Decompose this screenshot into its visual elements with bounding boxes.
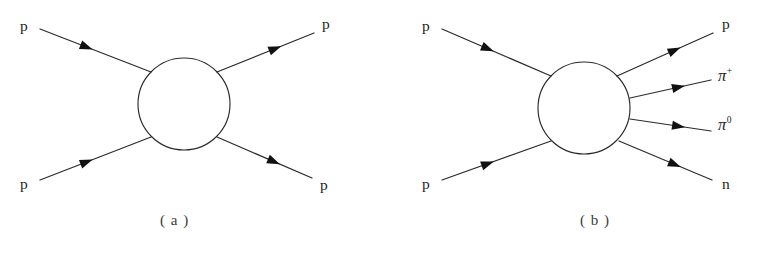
particle-label-b-incoming-p: p xyxy=(422,176,430,192)
particle-symbol: p xyxy=(20,175,28,192)
arrowhead-b-incoming-0 xyxy=(480,42,496,56)
particle-symbol: n xyxy=(722,175,730,192)
arrowhead-b-outgoing-1 xyxy=(671,81,686,93)
particle-label-b-outgoing-n: n xyxy=(722,176,730,192)
particle-line-b-outgoing-0 xyxy=(617,33,713,76)
particle-line-b-outgoing-3 xyxy=(619,141,712,180)
diagram-canvas xyxy=(0,0,764,266)
arrowhead-a-incoming-0 xyxy=(79,40,94,53)
particle-symbol: p xyxy=(722,15,730,32)
physics-figure: pppppppπ+π0n ( a ) ( b ) xyxy=(0,0,764,266)
particle-symbol: π xyxy=(718,115,726,134)
particle-symbol: p xyxy=(422,17,430,34)
particle-symbol: π xyxy=(718,66,726,85)
particle-line-b-incoming-1 xyxy=(442,141,551,180)
interaction-blob-a xyxy=(138,58,230,150)
particle-label-b-incoming-p: p xyxy=(422,18,430,34)
arrowhead-a-outgoing-1 xyxy=(266,155,282,169)
particle-line-a-incoming-0 xyxy=(40,29,151,72)
particle-symbol: p xyxy=(320,176,328,193)
arrowhead-b-incoming-1 xyxy=(480,157,495,170)
arrowhead-b-outgoing-2 xyxy=(671,121,685,132)
particle-charge-superscript: 0 xyxy=(727,115,732,125)
arrowhead-b-outgoing-0 xyxy=(667,43,683,57)
interaction-blob-b xyxy=(538,62,630,154)
arrowhead-a-incoming-1 xyxy=(79,155,94,168)
particle-label-a-outgoing-p: p xyxy=(320,177,328,193)
particle-label-b-outgoing-p: p xyxy=(722,16,730,32)
panel-caption-b: ( b ) xyxy=(580,212,610,229)
arrowhead-a-outgoing-0 xyxy=(267,42,282,55)
particle-line-b-outgoing-2 xyxy=(630,119,711,131)
particle-label-a-incoming-p: p xyxy=(20,176,28,192)
particle-label-b-outgoing-pi-zero: π0 xyxy=(718,117,731,134)
particle-line-b-outgoing-1 xyxy=(630,80,711,98)
particle-charge-superscript: + xyxy=(727,66,732,76)
particle-line-b-incoming-0 xyxy=(442,29,551,76)
particle-label-a-incoming-p: p xyxy=(20,18,28,34)
particle-line-a-outgoing-1 xyxy=(217,137,312,178)
particle-label-a-outgoing-p: p xyxy=(322,16,330,32)
particle-symbol: p xyxy=(322,15,330,32)
particle-line-a-incoming-1 xyxy=(40,137,151,180)
particle-symbol: p xyxy=(422,175,430,192)
particle-line-a-outgoing-0 xyxy=(217,33,314,72)
particle-label-b-outgoing-pi-plus: π+ xyxy=(718,68,732,85)
arrowhead-b-outgoing-3 xyxy=(667,158,683,172)
panel-caption-a: ( a ) xyxy=(160,212,189,229)
particle-symbol: p xyxy=(20,17,28,34)
